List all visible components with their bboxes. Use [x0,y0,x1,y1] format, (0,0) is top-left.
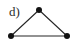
graph-node-bottom-left [8,33,14,39]
triangle-graph-diagram [0,0,76,50]
graph-edge-bottomleft-apex [11,10,39,36]
graph-node-apex [36,7,42,13]
graph-node-bottom-right [64,33,70,39]
figure-panel-d: d) [0,0,76,50]
graph-edge-apex-bottomright [39,10,67,36]
